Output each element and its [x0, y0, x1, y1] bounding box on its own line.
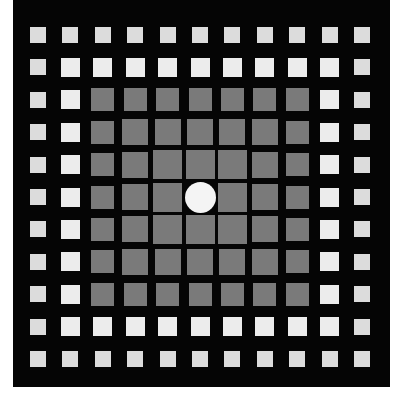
grid-square-ring-0 [95, 27, 111, 43]
grid-square-ring-4 [218, 150, 247, 179]
grid-square-ring-0 [354, 189, 370, 205]
grid-square-ring-1 [255, 58, 274, 77]
grid-square-ring-1 [320, 220, 339, 239]
grid-square-ring-1 [61, 90, 80, 109]
grid-square-ring-3 [219, 119, 245, 145]
grid-square-ring-2 [189, 283, 212, 306]
grid-square-ring-2 [124, 283, 147, 306]
grid-square-ring-2 [286, 218, 309, 241]
grid-square-ring-0 [354, 92, 370, 108]
grid-square-ring-0 [30, 221, 46, 237]
grid-square-ring-1 [320, 58, 339, 77]
grid-square-ring-3 [187, 249, 213, 275]
grid-square-ring-1 [93, 58, 112, 77]
grid-square-ring-0 [354, 319, 370, 335]
grid-square-ring-1 [288, 317, 307, 336]
grid-square-ring-3 [122, 184, 148, 210]
grid-square-ring-0 [354, 221, 370, 237]
grid-square-ring-1 [320, 317, 339, 336]
grid-square-ring-4 [153, 215, 182, 244]
grid-square-ring-3 [252, 152, 278, 178]
grid-square-ring-0 [322, 27, 338, 43]
grid-square-ring-0 [224, 351, 240, 367]
grid-square-ring-1 [61, 220, 80, 239]
center-circle [185, 182, 216, 213]
grid-square-ring-0 [30, 27, 46, 43]
grid-square-ring-2 [91, 283, 114, 306]
grid-square-ring-1 [126, 317, 145, 336]
grid-square-ring-1 [320, 123, 339, 142]
grid-square-ring-2 [221, 88, 244, 111]
grid-square-ring-3 [155, 119, 181, 145]
grid-square-ring-1 [320, 285, 339, 304]
grid-square-ring-2 [91, 88, 114, 111]
grid-square-ring-1 [61, 58, 80, 77]
grid-square-ring-0 [160, 27, 176, 43]
grid-square-ring-0 [289, 351, 305, 367]
grid-square-ring-1 [223, 58, 242, 77]
grid-square-ring-4 [153, 150, 182, 179]
grid-square-ring-3 [219, 249, 245, 275]
grid-square-ring-2 [91, 121, 114, 144]
grid-square-ring-0 [30, 59, 46, 75]
grid-square-ring-0 [354, 157, 370, 173]
grid-square-ring-0 [354, 27, 370, 43]
grid-square-ring-0 [354, 286, 370, 302]
grid-square-ring-1 [191, 317, 210, 336]
grid-square-ring-3 [155, 249, 181, 275]
grid-square-ring-0 [289, 27, 305, 43]
grid-square-ring-2 [91, 153, 114, 176]
grid-square-ring-1 [320, 90, 339, 109]
grid-square-ring-0 [30, 92, 46, 108]
grid-square-ring-3 [122, 249, 148, 275]
grid-square-ring-2 [156, 88, 179, 111]
grid-square-ring-2 [286, 186, 309, 209]
grid-square-ring-0 [30, 124, 46, 140]
grid-square-ring-1 [320, 155, 339, 174]
grid-square-ring-0 [354, 351, 370, 367]
grid-square-ring-1 [158, 317, 177, 336]
grid-square-ring-2 [286, 88, 309, 111]
grid-square-ring-2 [221, 283, 244, 306]
grid-square-ring-1 [223, 317, 242, 336]
grid-square-ring-0 [322, 351, 338, 367]
grid-square-ring-3 [252, 216, 278, 242]
grid-square-ring-3 [252, 184, 278, 210]
grid-square-ring-0 [127, 27, 143, 43]
grid-square-ring-1 [126, 58, 145, 77]
grid-square-ring-4 [218, 183, 247, 212]
grid-square-ring-1 [320, 188, 339, 207]
grid-square-ring-1 [61, 252, 80, 271]
grid-square-ring-0 [127, 351, 143, 367]
grid-square-ring-1 [61, 155, 80, 174]
grid-square-ring-1 [61, 123, 80, 142]
grid-square-ring-1 [61, 317, 80, 336]
grid-square-ring-4 [186, 150, 215, 179]
grid-square-ring-1 [288, 58, 307, 77]
grid-square-ring-2 [286, 153, 309, 176]
grid-square-ring-0 [192, 27, 208, 43]
grid-square-ring-1 [191, 58, 210, 77]
grid-square-ring-2 [253, 88, 276, 111]
grid-square-ring-2 [286, 121, 309, 144]
grid-square-ring-2 [189, 88, 212, 111]
grid-square-ring-3 [252, 119, 278, 145]
grid-square-ring-2 [286, 283, 309, 306]
grid-square-ring-0 [354, 59, 370, 75]
grid-square-ring-4 [218, 215, 247, 244]
grid-square-ring-0 [192, 351, 208, 367]
grid-square-ring-0 [257, 27, 273, 43]
grid-square-ring-2 [91, 186, 114, 209]
grid-square-ring-3 [187, 119, 213, 145]
grid-square-ring-4 [186, 215, 215, 244]
grid-square-ring-1 [93, 317, 112, 336]
grid-square-ring-0 [354, 254, 370, 270]
grid-square-ring-1 [61, 188, 80, 207]
grid-square-ring-0 [62, 27, 78, 43]
grid-square-ring-1 [158, 58, 177, 77]
grid-square-ring-2 [286, 250, 309, 273]
grid-square-ring-0 [224, 27, 240, 43]
grid-square-ring-3 [122, 119, 148, 145]
grid-square-ring-0 [30, 157, 46, 173]
grid-square-ring-1 [61, 285, 80, 304]
